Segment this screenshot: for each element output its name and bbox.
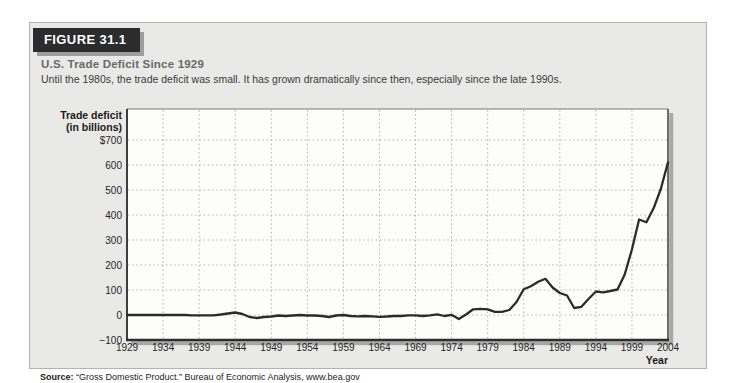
x-tick-label: 1929 <box>116 342 139 353</box>
x-tick-label: 1989 <box>549 342 572 353</box>
x-tick-label: 1949 <box>260 342 283 353</box>
source-text: “Gross Domestic Product.” Bureau of Econ… <box>76 372 360 382</box>
x-tick-label: 1954 <box>296 342 319 353</box>
x-tick-label: 1974 <box>440 342 463 353</box>
x-tick-label: 1934 <box>152 342 175 353</box>
y-tick-label: 400 <box>105 210 122 221</box>
x-tick-label: 1984 <box>513 342 536 353</box>
x-tick-label: 2004 <box>657 342 680 353</box>
y-tick-label: 600 <box>105 160 122 171</box>
trade-deficit-chart: $7006005004003002001000−100 192919341939… <box>0 0 735 383</box>
x-axis-title: Year <box>646 354 668 366</box>
y-tick-label: 100 <box>105 285 122 296</box>
y-tick-label: 300 <box>105 235 122 246</box>
plot-area <box>127 109 668 340</box>
x-tick-label: 1944 <box>224 342 247 353</box>
y-tick-label: 200 <box>105 260 122 271</box>
x-tick-label: 1979 <box>477 342 500 353</box>
source-label: Source: <box>40 372 74 382</box>
y-tick-label: 500 <box>105 185 122 196</box>
y-tick-label: $700 <box>100 135 123 146</box>
x-tick-label: 1964 <box>368 342 391 353</box>
y-axis-title-line2: (in billions) <box>66 121 122 133</box>
x-tick-label: 1959 <box>332 342 355 353</box>
x-tick-label: 1939 <box>188 342 211 353</box>
y-axis-title-line1: Trade deficit <box>60 109 122 121</box>
source-note: Source: “Gross Domestic Product.” Bureau… <box>40 372 360 382</box>
y-axis-tick-labels: $7006005004003002001000−100 <box>99 135 122 346</box>
y-tick-label: 0 <box>116 310 122 321</box>
x-tick-label: 1999 <box>621 342 644 353</box>
x-tick-label: 1994 <box>585 342 608 353</box>
x-tick-label: 1969 <box>404 342 427 353</box>
page: FIGURE 31.1 U.S. Trade Deficit Since 192… <box>0 0 735 383</box>
